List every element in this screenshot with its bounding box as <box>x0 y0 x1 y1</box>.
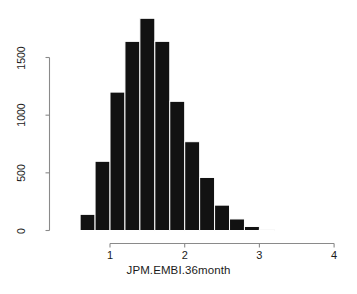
x-axis-title: JPM.EMBI.36month <box>0 264 357 276</box>
x-axis-tick-label: 1 <box>95 249 125 261</box>
histogram-figure: 050010001500 1234 JPM.EMBI.36month <box>0 0 357 294</box>
histogram-bar <box>170 101 185 230</box>
histogram-bar <box>185 142 200 231</box>
histogram-bar <box>259 230 274 231</box>
histogram-bar <box>244 226 259 230</box>
histogram-bar <box>155 41 170 230</box>
histogram-bar <box>140 18 155 230</box>
histogram-bar <box>95 161 110 230</box>
histogram-bar <box>110 92 125 230</box>
x-axis-tick-label: 3 <box>244 249 274 261</box>
y-axis-tick-label: 500 <box>14 152 28 194</box>
y-axis-tick-label: 0 <box>14 210 28 252</box>
y-axis-tick-label: 1500 <box>14 37 28 79</box>
y-axis <box>46 58 50 231</box>
y-axis-tick-label: 1000 <box>14 94 28 136</box>
histogram-bar <box>80 214 95 230</box>
histogram-bar <box>215 205 230 230</box>
histogram-bar <box>125 41 140 230</box>
x-axis-tick-label: 2 <box>170 249 200 261</box>
histogram-bar <box>200 177 215 230</box>
histogram-bars <box>80 18 274 230</box>
histogram-bar <box>230 219 245 231</box>
x-axis-tick-label: 4 <box>319 249 349 261</box>
x-axis <box>110 244 334 248</box>
